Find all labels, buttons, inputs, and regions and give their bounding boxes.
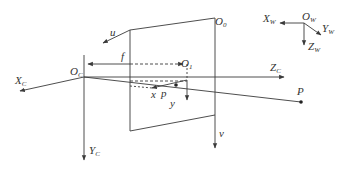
point-P-world [299, 100, 303, 104]
u-axis [103, 30, 130, 43]
projection-ray [84, 77, 301, 102]
x-c-axis [20, 77, 84, 91]
label-u: u [110, 27, 116, 38]
label-v: v [219, 128, 224, 139]
label-o-1: O1 [181, 58, 192, 71]
label-o-0: O0 [215, 16, 226, 29]
label-o-w: OW [302, 11, 316, 24]
label-x-c: XC [15, 75, 26, 88]
y-w-axis [304, 23, 321, 35]
label-p: p [161, 88, 167, 99]
label-x-w: XW [263, 13, 276, 26]
label-P: P [297, 86, 304, 97]
label-f: f [121, 51, 124, 62]
label-z-c: ZC [270, 62, 281, 75]
label-y-c: YC [89, 145, 100, 158]
image-plane [130, 18, 215, 131]
label-y-w: YW [322, 23, 334, 36]
label-x: x [151, 89, 156, 100]
camera-projection-diagram [0, 0, 343, 171]
x-image-dashed [130, 86, 152, 88]
label-z-w: ZW [308, 41, 320, 54]
point-p-image [174, 83, 178, 87]
label-o-c: OC [70, 66, 83, 79]
label-y: y [170, 98, 175, 109]
